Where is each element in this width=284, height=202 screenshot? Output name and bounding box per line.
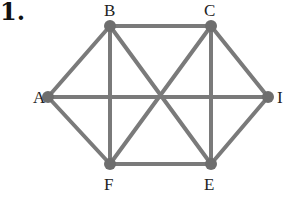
vertex-E — [205, 158, 217, 170]
edge-A-B — [48, 26, 110, 97]
edge-A-F — [48, 97, 110, 164]
vertex-label-C: C — [204, 1, 215, 20]
vertex-F — [104, 158, 116, 170]
vertex-C — [205, 20, 217, 32]
vertex-label-A: A — [33, 88, 46, 107]
graph-diagram: ABCIEF — [0, 0, 284, 202]
graph-edges — [48, 26, 268, 164]
vertex-B — [104, 20, 116, 32]
vertex-I — [262, 91, 274, 103]
vertex-label-E: E — [204, 175, 214, 194]
edge-C-I — [211, 26, 268, 97]
edge-E-I — [211, 97, 268, 164]
vertex-label-F: F — [104, 175, 113, 194]
vertex-label-I: I — [277, 88, 283, 107]
vertex-label-B: B — [104, 1, 115, 20]
